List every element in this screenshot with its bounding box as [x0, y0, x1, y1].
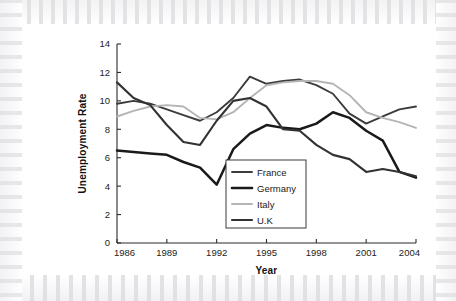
y-tick-label: 14 [99, 38, 110, 49]
chart-legend: FranceGermanyItalyU.K [226, 160, 306, 228]
y-tick-label: 10 [99, 95, 110, 106]
y-tick-label: 2 [105, 209, 110, 220]
legend-label-italy: Italy [257, 199, 275, 210]
legend-label-france: France [257, 167, 287, 178]
figure-container: 02468101214 1986198919921995199820012004… [0, 0, 456, 301]
x-axis-ticks [117, 239, 416, 243]
y-tick-label: 12 [99, 67, 110, 78]
x-tick-label: 1998 [306, 247, 327, 258]
y-tick-label: 8 [105, 124, 110, 135]
series-line-france [117, 77, 416, 124]
x-tick-label: 1992 [206, 247, 227, 258]
x-tick-label: 1995 [256, 247, 277, 258]
x-tick-label: 2004 [399, 247, 420, 258]
x-axis-tick-labels: 1986198919921995199820012004 [114, 247, 420, 258]
legend-label-u-k: U.K [257, 215, 274, 226]
legend-label-germany: Germany [257, 183, 296, 194]
y-tick-label: 4 [105, 181, 110, 192]
y-axis-ticks [117, 44, 121, 243]
line-chart: 02468101214 1986198919921995199820012004… [0, 0, 456, 301]
y-axis-tick-labels: 02468101214 [99, 38, 110, 248]
y-tick-label: 6 [105, 152, 110, 163]
x-tick-label: 1986 [114, 247, 135, 258]
x-axis-title: Year [256, 265, 278, 276]
y-axis-title: Unemployment Rate [77, 93, 88, 193]
x-tick-label: 2001 [356, 247, 377, 258]
x-tick-label: 1989 [156, 247, 177, 258]
y-tick-label: 0 [105, 237, 110, 248]
